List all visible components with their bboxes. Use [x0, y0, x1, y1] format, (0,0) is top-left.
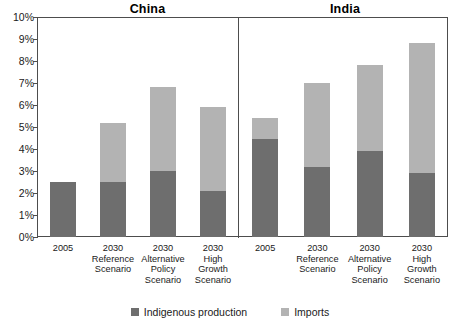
- legend-swatch-icon-indigenous: [131, 308, 139, 316]
- x-axis-label-year: 2030: [138, 243, 188, 254]
- x-axis-label-year: 2030: [344, 243, 396, 254]
- x-axis-label-scenario: Alternative: [344, 254, 396, 265]
- x-axis-label-china-2: 2030AlternativePolicyScenario: [138, 243, 188, 285]
- x-axis-label-year: 2030: [396, 243, 448, 254]
- panel-divider: [238, 17, 239, 238]
- y-axis-tick-label: 3%: [4, 166, 34, 176]
- bar-segment-imports: [304, 83, 330, 167]
- y-axis-tick-label: 2%: [4, 188, 34, 198]
- bar-china-0: [50, 17, 76, 237]
- x-axis-label-china-3: 2030HighGrowthScenario: [188, 243, 238, 285]
- bar-india-1: [304, 17, 330, 237]
- y-axis-tick-label: 8%: [4, 56, 34, 66]
- x-axis-label-scenario: Alternative: [138, 254, 188, 265]
- y-axis-tick-label: 9%: [4, 34, 34, 44]
- x-axis-label-year: 2030: [88, 243, 138, 254]
- x-axis-label-scenario: Scenario: [138, 275, 188, 286]
- bar-segment-indigenous-production: [50, 182, 76, 237]
- x-axis-label-year: 2030: [291, 243, 343, 254]
- y-axis: 10%9%8%7%6%5%4%3%2%1%0%: [0, 0, 34, 260]
- x-axis-label-scenario: Scenario: [88, 264, 138, 275]
- legend-swatch-icon-imports: [281, 308, 289, 316]
- x-axis-label-india-2: 2030AlternativePolicyScenario: [344, 243, 396, 285]
- bar-segment-imports: [357, 65, 383, 151]
- panel-title-india: India: [250, 2, 440, 16]
- x-axis-label-scenario: Scenario: [396, 275, 448, 286]
- x-axis-label-scenario: High: [396, 254, 448, 265]
- y-axis-tick-label: 7%: [4, 78, 34, 88]
- stacked-bar-chart: China India 10%9%8%7%6%5%4%3%2%1%0% 2005…: [0, 0, 460, 330]
- y-axis-tick-label: 6%: [4, 100, 34, 110]
- bar-segment-indigenous-production: [150, 171, 176, 237]
- bar-segment-imports: [200, 107, 226, 191]
- x-axis-label-india-0: 2005: [239, 243, 291, 254]
- bar-india-2: [357, 17, 383, 237]
- x-axis-label-scenario: Scenario: [344, 275, 396, 286]
- x-axis-label-scenario: Policy: [344, 264, 396, 275]
- y-axis-tick-label: 0%: [4, 232, 34, 242]
- bar-segment-indigenous-production: [357, 151, 383, 237]
- x-axis-label-year: 2005: [239, 243, 291, 254]
- x-axis-label-year: 2005: [38, 243, 88, 254]
- y-axis-tick-label: 5%: [4, 122, 34, 132]
- bar-segment-indigenous-production: [409, 173, 435, 237]
- x-axis-label-scenario: Growth: [396, 264, 448, 275]
- x-axis-label-scenario: Scenario: [188, 275, 238, 286]
- x-axis-label-scenario: Reference: [291, 254, 343, 265]
- legend-label-imports: Imports: [294, 306, 329, 318]
- legend-label-indigenous: Indigenous production: [144, 306, 247, 318]
- bar-india-0: [252, 17, 278, 237]
- y-axis-tick-label: 10%: [4, 12, 34, 22]
- plot-area: [37, 17, 448, 237]
- x-axis-label-scenario: Policy: [138, 264, 188, 275]
- x-axis-label-year: 2030: [188, 243, 238, 254]
- panel-title-china: China: [60, 2, 235, 16]
- bar-segment-imports: [252, 118, 278, 139]
- x-axis-label-china-1: 2030ReferenceScenario: [88, 243, 138, 275]
- y-axis-tick-label: 1%: [4, 210, 34, 220]
- y-axis-tick-label: 4%: [4, 144, 34, 154]
- legend-item-imports: Imports: [281, 306, 329, 318]
- x-axis-label-china-0: 2005: [38, 243, 88, 254]
- bar-china-1: [100, 17, 126, 237]
- x-axis-label-scenario: High: [188, 254, 238, 265]
- bar-segment-indigenous-production: [304, 167, 330, 237]
- x-axis-label-india-1: 2030ReferenceScenario: [291, 243, 343, 275]
- legend: Indigenous production Imports: [0, 306, 460, 318]
- x-axis-label-india-3: 2030HighGrowthScenario: [396, 243, 448, 285]
- bar-segment-indigenous-production: [200, 191, 226, 237]
- bar-china-2: [150, 17, 176, 237]
- bar-segment-indigenous-production: [100, 182, 126, 237]
- bar-segment-indigenous-production: [252, 139, 278, 237]
- bar-china-3: [200, 17, 226, 237]
- x-axis-label-scenario: Reference: [88, 254, 138, 265]
- bar-segment-imports: [150, 87, 176, 171]
- x-axis-label-scenario: Scenario: [291, 264, 343, 275]
- bar-india-3: [409, 17, 435, 237]
- legend-item-indigenous-production: Indigenous production: [131, 306, 247, 318]
- bar-segment-imports: [409, 43, 435, 173]
- x-axis-label-scenario: Growth: [188, 264, 238, 275]
- bar-segment-imports: [100, 123, 126, 182]
